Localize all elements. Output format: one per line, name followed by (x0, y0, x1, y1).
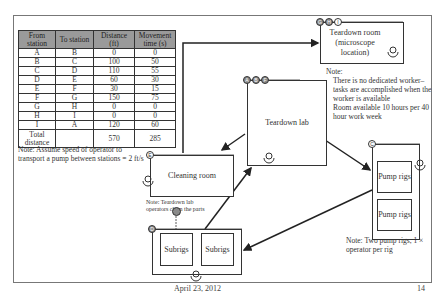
marker-e-icon: E (146, 151, 154, 159)
marker-c-icon: C (368, 140, 376, 148)
footer-date: April 23, 2012 (174, 284, 221, 293)
speed-note: Note: Assume speed of operator to transp… (18, 145, 148, 163)
cell: A (56, 121, 94, 130)
station-cleaning-room: Cleaning room (150, 155, 234, 197)
table-row: GH00 (19, 103, 176, 112)
header-from: From station (19, 31, 56, 49)
operator-icon (386, 44, 400, 58)
marker-g-icon: G (316, 18, 324, 26)
cell: 120 (94, 121, 135, 130)
pump-rigs-note: Note: Two pump rigs, 1 × operator per ri… (346, 236, 426, 254)
table-row: FG15075 (19, 94, 176, 103)
table-header-row: From station To station Distance (ft) Mo… (19, 31, 176, 49)
distance-table: From station To station Distance (ft) Mo… (18, 30, 176, 148)
operator-icon (413, 157, 427, 171)
marker-b-icon: B (252, 76, 260, 84)
pump-rig-1: Pump rigs (377, 161, 412, 193)
note-title: Note: (326, 67, 434, 76)
operator-icon (189, 268, 203, 282)
cleaning-room-label: Cleaning room (168, 171, 216, 181)
marker-f-icon: F (261, 76, 269, 84)
operator-icon (141, 173, 155, 187)
operator-icon (262, 150, 276, 164)
teardown-lab-label: Teardown lab (265, 118, 309, 128)
note-bullet: There is no dedicated worker–tasks are a… (333, 76, 434, 103)
marker-h-icon: H (325, 18, 333, 26)
marker-i-icon: I (334, 18, 342, 26)
subrig-2: Subrigs (201, 233, 234, 266)
teardown-room-note: Note: There is no dedicated worker–tasks… (326, 67, 434, 121)
page-number: 14 (417, 284, 425, 293)
marker-a-icon: A (243, 76, 251, 84)
teardown-room-label: Teardown room (microscope location) (325, 28, 385, 58)
marker-d-icon: D (148, 225, 156, 233)
station-teardown-lab: Teardown lab (247, 80, 327, 166)
operator-shared-icon (172, 207, 181, 216)
cell: 60 (135, 121, 176, 130)
header-time: Movement time (s) (135, 31, 176, 49)
header-to: To station (56, 31, 94, 49)
note-bullet: Room available 10 hours per 40 hour work… (333, 103, 434, 121)
subrig-1: Subrigs (160, 233, 193, 266)
pump-rig-2: Pump rigs (377, 199, 412, 231)
table-row: IA12060 (19, 121, 176, 130)
header-distance: Distance (ft) (94, 31, 135, 49)
cell: I (19, 121, 56, 130)
